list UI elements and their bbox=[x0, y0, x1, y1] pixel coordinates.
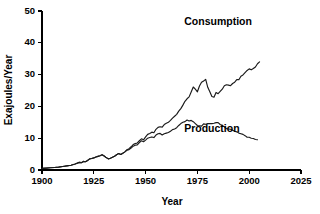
chart-container: 01020304050 190019251950197520002025 Con… bbox=[0, 0, 320, 214]
x-tick-label: 2000 bbox=[239, 175, 260, 186]
series-annotations: ConsumptionProduction bbox=[184, 15, 252, 134]
energy-line-chart: 01020304050 190019251950197520002025 Con… bbox=[0, 0, 320, 214]
x-tick-label: 2025 bbox=[290, 175, 312, 186]
y-axis-title: Exajoules/Year bbox=[3, 55, 14, 126]
series-line-consumption bbox=[42, 62, 260, 169]
series-label-consumption: Consumption bbox=[184, 15, 252, 27]
y-tick-label: 0 bbox=[30, 164, 35, 175]
y-axis-ticks: 01020304050 bbox=[24, 5, 42, 175]
y-tick-label: 30 bbox=[24, 68, 35, 79]
y-tick-label: 40 bbox=[24, 36, 35, 47]
series-layer bbox=[42, 62, 260, 169]
x-tick-label: 1925 bbox=[83, 175, 105, 186]
y-tick-label: 10 bbox=[24, 132, 35, 143]
x-tick-label: 1950 bbox=[135, 175, 156, 186]
axes-layer bbox=[42, 11, 301, 170]
series-label-production: Production bbox=[184, 122, 239, 134]
x-axis-ticks: 190019251950197520002025 bbox=[31, 170, 312, 186]
y-tick-label: 50 bbox=[24, 5, 35, 16]
x-tick-label: 1900 bbox=[31, 175, 52, 186]
y-tick-label: 20 bbox=[24, 100, 35, 111]
x-axis-title: Year bbox=[161, 196, 182, 207]
x-tick-label: 1975 bbox=[187, 175, 209, 186]
